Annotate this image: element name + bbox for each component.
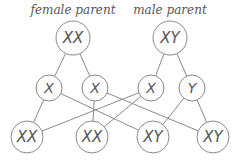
nodes: XXXYXXXYXXXXXYXY — [11, 21, 229, 153]
offspring-node-o4: XY — [197, 121, 229, 153]
node-label: XY — [142, 128, 164, 146]
node-label: X — [145, 80, 156, 96]
node-label: XX — [62, 29, 84, 47]
offspring-node-o2: XX — [76, 121, 108, 153]
gamete-node-g2: X — [82, 75, 108, 101]
node-label: Y — [188, 80, 198, 96]
parent-node-female: XX — [56, 21, 90, 55]
edge-g1-o1 — [34, 100, 44, 123]
edge-female-g1 — [55, 53, 66, 76]
male-parent-label: male parent — [133, 3, 207, 17]
node-label: XX — [81, 128, 103, 146]
offspring-node-o1: XX — [11, 121, 43, 153]
node-label: XX — [16, 128, 38, 146]
female-parent-label: female parent — [29, 3, 115, 17]
edge-male-g3 — [156, 54, 164, 76]
gamete-node-g1: X — [36, 75, 62, 101]
node-label: XY — [159, 29, 181, 47]
gamete-node-g4: Y — [179, 75, 205, 101]
parent-node-male: XY — [153, 21, 187, 55]
edge-male-g4 — [177, 54, 187, 77]
node-label: XY — [202, 128, 224, 146]
node-label: X — [89, 80, 100, 96]
edge-female-g2 — [80, 54, 90, 77]
inheritance-diagram: female parent male parent XXXYXXXYXXXXXY… — [0, 0, 240, 161]
edge-g4-o4 — [197, 100, 207, 122]
gamete-node-g3: X — [138, 75, 164, 101]
node-label: X — [43, 80, 54, 96]
offspring-node-o3: XY — [137, 121, 169, 153]
